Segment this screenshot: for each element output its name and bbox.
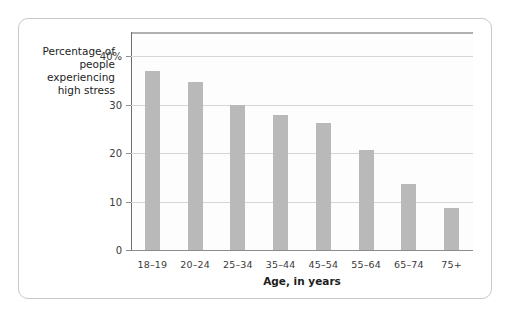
y-tick-mark (126, 153, 131, 154)
bar-chart: Percentage of people experiencing high s… (19, 19, 493, 300)
x-tick-label: 20–24 (180, 259, 210, 270)
figure-panel: Percentage of people experiencing high s… (18, 18, 492, 299)
x-axis-line (131, 250, 473, 251)
y-axis-title-line-4: high stress (31, 84, 115, 97)
x-tick-label: 35–44 (266, 259, 296, 270)
y-tick-mark (126, 105, 131, 106)
x-tick-label: 65–74 (394, 259, 424, 270)
bar (316, 123, 331, 250)
bar (359, 150, 374, 250)
bar (230, 105, 245, 250)
x-tick-label: 25–34 (223, 259, 253, 270)
x-tick-label: 55–64 (351, 259, 381, 270)
x-tick-label: 45–54 (308, 259, 338, 270)
x-tick-label: 18–19 (137, 259, 167, 270)
y-tick-mark (126, 56, 131, 57)
bar (273, 115, 288, 250)
gridline (131, 56, 473, 57)
gridline (131, 105, 473, 106)
gridline (131, 202, 473, 203)
y-tick-label: 30 (109, 99, 122, 110)
plot-area: 010203040% 18–1920–2425–3435–4445–5455–6… (131, 32, 473, 251)
bar (401, 184, 416, 250)
y-tick-label: 0 (116, 245, 122, 256)
y-axis-title-line-3: experiencing (31, 71, 115, 84)
plot-top-rule (131, 32, 473, 34)
y-axis-line (131, 32, 132, 251)
y-tick-label: 40% (100, 51, 122, 62)
y-tick-mark (126, 202, 131, 203)
y-tick-mark (126, 250, 131, 251)
x-tick-label: 75+ (441, 259, 462, 270)
y-tick-label: 10 (109, 196, 122, 207)
y-tick-label: 20 (109, 148, 122, 159)
bar (145, 71, 160, 250)
bar (444, 208, 459, 250)
x-axis-title: Age, in years (131, 275, 473, 287)
gridline (131, 153, 473, 154)
bar (188, 82, 203, 250)
